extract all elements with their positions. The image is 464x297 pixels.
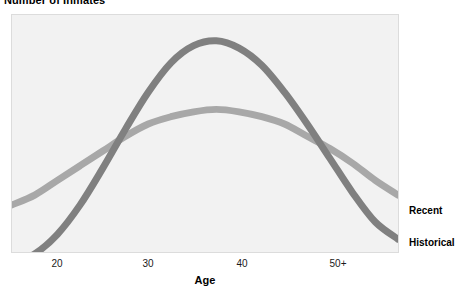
legend-label-recent: Recent bbox=[409, 205, 442, 216]
x-tick-label-20: 20 bbox=[51, 258, 62, 269]
legend-label-historical: Historical bbox=[409, 237, 455, 248]
chart-container: Number of Inmates 20 30 40 50+ Age Recen… bbox=[0, 0, 464, 297]
x-tick-label-50plus: 50+ bbox=[330, 258, 347, 269]
x-tick-label-30: 30 bbox=[142, 258, 153, 269]
series-line-recent bbox=[12, 109, 398, 205]
series-line-historical bbox=[12, 41, 398, 252]
x-tick-label-40: 40 bbox=[236, 258, 247, 269]
plot-area bbox=[11, 14, 399, 253]
x-axis-title: Age bbox=[195, 274, 216, 286]
chart-title: Number of Inmates bbox=[4, 0, 105, 6]
plot-svg bbox=[12, 15, 398, 252]
